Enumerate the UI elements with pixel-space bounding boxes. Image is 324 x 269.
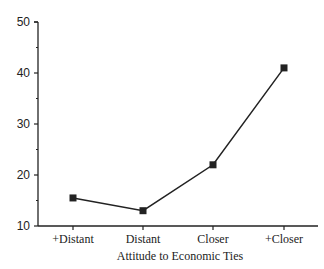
y-tick-label: 30 (17, 117, 31, 131)
x-tick-label: +Distant (52, 232, 94, 246)
data-point-marker (281, 64, 288, 71)
line-chart: 1020304050 +DistantDistantCloser+Closer … (0, 0, 324, 269)
series-line (73, 68, 284, 211)
x-axis-title: Attitude to Economic Ties (117, 249, 244, 263)
x-axis: +DistantDistantCloser+Closer (38, 226, 318, 246)
y-tick-label: 20 (17, 168, 31, 182)
data-series (70, 64, 288, 214)
data-point-marker (210, 161, 217, 168)
y-tick-label: 50 (17, 15, 31, 29)
x-tick-label: +Closer (265, 232, 303, 246)
data-point-marker (70, 194, 77, 201)
x-tick-label: Distant (126, 232, 161, 246)
y-axis: 1020304050 (17, 15, 38, 233)
x-tick-label: Closer (197, 232, 228, 246)
y-tick-label: 40 (17, 66, 31, 80)
data-point-marker (140, 207, 147, 214)
y-tick-label: 10 (17, 219, 31, 233)
